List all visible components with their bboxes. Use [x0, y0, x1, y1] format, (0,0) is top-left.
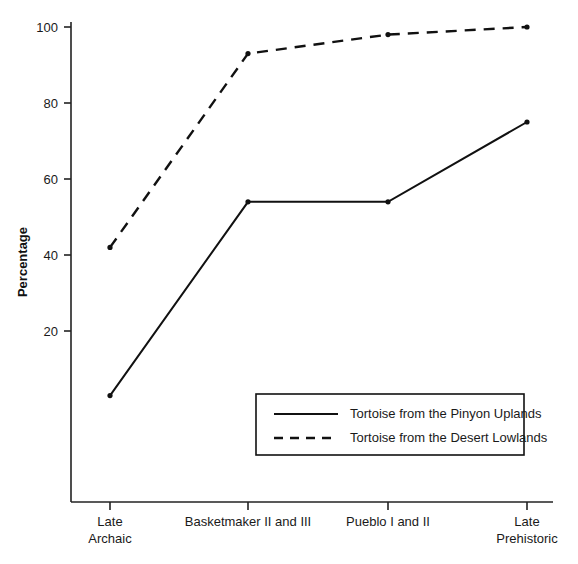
series-line-solid — [110, 122, 527, 396]
data-point — [385, 199, 390, 204]
x-axis-group: LateArchaicBasketmaker II and IIIPueblo … — [71, 502, 558, 546]
data-point — [385, 32, 390, 37]
x-tick-label-group: LateArchaicBasketmaker II and IIIPueblo … — [88, 514, 558, 546]
y-axis-group: 20406080100 Percentage — [15, 20, 71, 502]
line-chart: 20406080100 Percentage LateArchaicBasket… — [0, 0, 578, 564]
data-point — [107, 245, 112, 250]
legend-label: Tortoise from the Pinyon Uplands — [350, 406, 542, 421]
y-tick-label: 40 — [44, 248, 58, 263]
y-tick-label: 60 — [44, 172, 58, 187]
data-point — [245, 51, 250, 56]
y-tick-label: 80 — [44, 96, 58, 111]
data-point — [524, 119, 529, 124]
y-tick-label: 20 — [44, 324, 58, 339]
legend-border — [256, 394, 524, 455]
legend-label: Tortoise from the Desert Lowlands — [350, 430, 548, 445]
y-tick-label: 100 — [36, 20, 58, 35]
x-tick-group — [110, 502, 527, 510]
x-tick-label: Pueblo I and II — [346, 514, 430, 529]
y-tick-group: 20406080100 — [36, 20, 71, 339]
x-tick-label: LatePrehistoric — [496, 514, 558, 546]
y-axis-title: Percentage — [15, 227, 30, 297]
data-point — [107, 393, 112, 398]
data-point — [245, 199, 250, 204]
x-tick-label: LateArchaic — [88, 514, 132, 546]
x-tick-label: Basketmaker II and III — [185, 514, 311, 529]
series-group — [107, 24, 529, 398]
chart-legend: Tortoise from the Pinyon UplandsTortoise… — [256, 394, 548, 455]
series-line-dashed — [110, 27, 527, 247]
chart-figure: 20406080100 Percentage LateArchaicBasket… — [0, 0, 578, 564]
data-point — [524, 24, 529, 29]
